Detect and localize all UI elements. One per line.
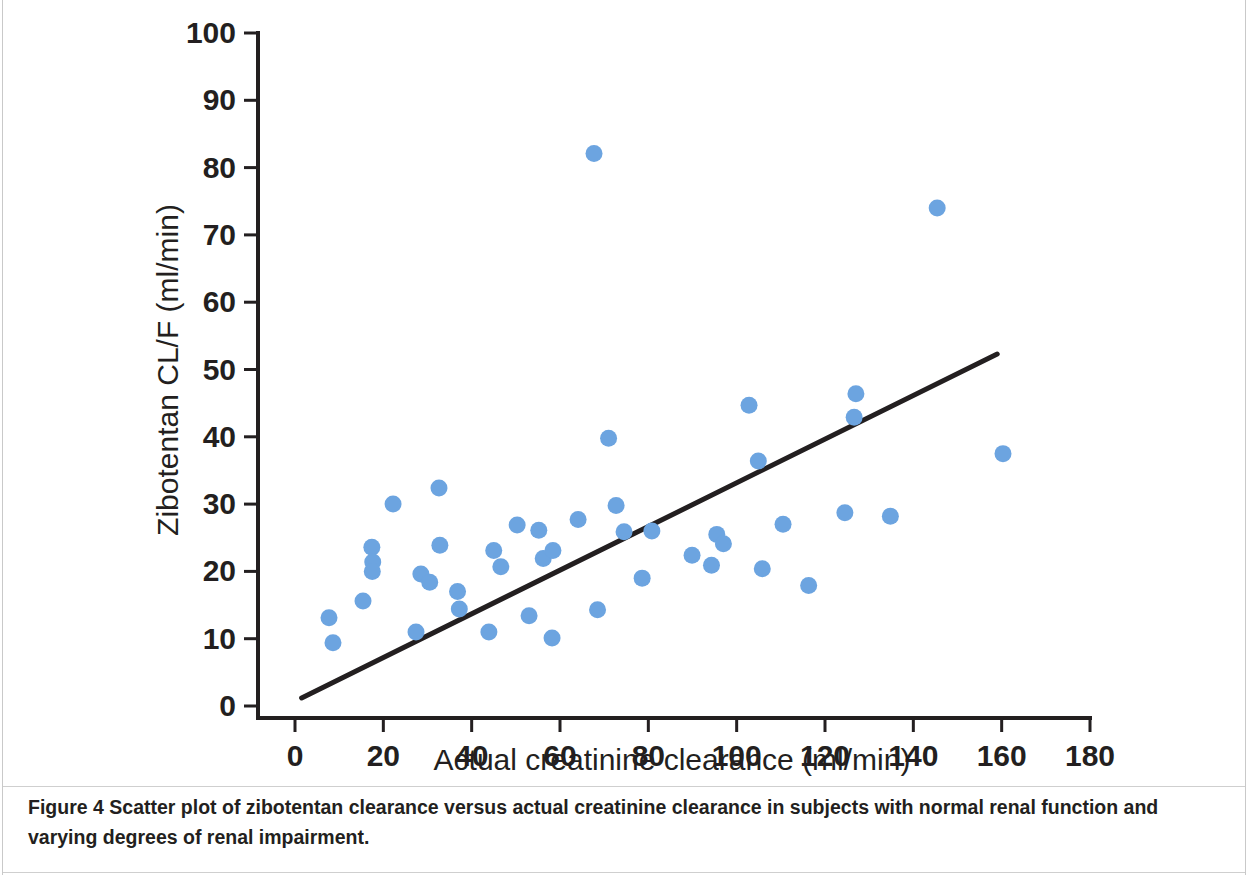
x-tick-label-20: 20	[367, 739, 400, 772]
data-point	[684, 547, 701, 564]
y-tick-label-40: 40	[203, 420, 236, 453]
data-point	[431, 537, 448, 554]
x-tick-label-160: 160	[977, 739, 1027, 772]
y-tick-label-70: 70	[203, 218, 236, 251]
data-point	[741, 397, 758, 414]
data-point	[509, 516, 526, 533]
data-point	[421, 574, 438, 591]
y-tick-label-60: 60	[203, 285, 236, 318]
y-tick-label-30: 30	[203, 487, 236, 520]
data-point	[754, 560, 771, 577]
data-point	[847, 385, 864, 402]
figure-caption-label: Figure 4	[28, 796, 104, 818]
data-point	[994, 445, 1011, 462]
data-point	[480, 623, 497, 640]
figure-caption: Figure 4 Scatter plot of zibotentan clea…	[28, 792, 1224, 852]
data-point	[600, 430, 617, 447]
data-point	[364, 563, 381, 580]
data-point	[492, 558, 509, 575]
data-point	[634, 570, 651, 587]
y-tick-label-20: 20	[203, 554, 236, 587]
y-axis: 0102030405060708090100	[186, 16, 258, 722]
data-point	[321, 609, 338, 626]
data-point	[485, 542, 502, 559]
data-point	[449, 583, 466, 600]
data-point	[530, 522, 547, 539]
data-point	[324, 634, 341, 651]
y-axis-title: Zibotentan CL/F (ml/min)	[151, 204, 184, 536]
data-point	[846, 409, 863, 426]
data-point	[882, 508, 899, 525]
y-tick-label-90: 90	[203, 83, 236, 116]
data-point	[586, 145, 603, 162]
y-tick-label-100: 100	[186, 16, 236, 49]
x-tick-label-180: 180	[1065, 739, 1115, 772]
data-point	[836, 504, 853, 521]
figure-caption-text: Scatter plot of zibotentan clearance ver…	[28, 796, 1158, 848]
data-point	[800, 577, 817, 594]
data-point	[643, 523, 660, 540]
data-point	[589, 601, 606, 618]
plot-canvas: 0102030405060708090100 02040608010012014…	[0, 0, 1248, 780]
data-point	[544, 542, 561, 559]
data-point	[703, 557, 720, 574]
figure-container: 0102030405060708090100 02040608010012014…	[0, 0, 1248, 875]
data-point	[616, 523, 633, 540]
caption-rule-top	[3, 786, 1245, 787]
y-tick-label-10: 10	[203, 622, 236, 655]
data-point	[408, 623, 425, 640]
data-point	[544, 630, 561, 647]
x-axis-title: Actual creatinine clearance (ml/min)	[434, 743, 911, 776]
data-point	[451, 601, 468, 618]
data-point	[363, 539, 380, 556]
data-point	[521, 607, 538, 624]
y-tick-label-50: 50	[203, 353, 236, 386]
scatter-plot: 0102030405060708090100 02040608010012014…	[0, 0, 1248, 780]
data-point	[715, 535, 732, 552]
data-point	[929, 199, 946, 216]
y-tick-label-0: 0	[219, 689, 236, 722]
x-tick-label-0: 0	[287, 739, 304, 772]
data-point	[430, 479, 447, 496]
y-tick-label-80: 80	[203, 151, 236, 184]
data-point	[385, 496, 402, 513]
data-point	[750, 453, 767, 470]
data-point	[775, 516, 792, 533]
data-point	[355, 593, 372, 610]
data-point	[570, 511, 587, 528]
caption-rule-bottom	[3, 872, 1245, 873]
data-point	[608, 497, 625, 514]
